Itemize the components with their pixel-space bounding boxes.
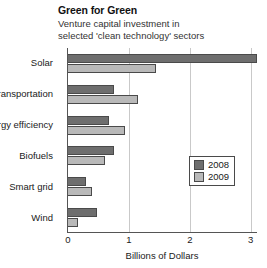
y-axis-label-smart-grid: Smart grid [0, 181, 53, 192]
bar-2008 [68, 177, 86, 186]
x-axis-tick-0: 0 [65, 234, 70, 245]
bar-2008 [68, 54, 257, 63]
bar-2008 [68, 208, 97, 217]
bar-2009 [68, 156, 105, 165]
y-axis-label-biofuels: Biofuels [0, 150, 53, 161]
legend-swatch-2009 [194, 172, 204, 182]
legend-label-2009: 2009 [208, 172, 229, 182]
bar-group [68, 79, 257, 110]
y-axis-label-solar: Solar [0, 57, 53, 68]
legend-item-2009: 2009 [194, 172, 229, 182]
bar-2009 [68, 187, 92, 196]
x-axis-tick-1: 1 [126, 234, 131, 245]
legend-swatch-2008 [194, 160, 204, 170]
bar-2009 [68, 64, 156, 73]
x-axis-title: Billions of Dollars [67, 250, 257, 261]
plot-area: SolarTransportationEnergy efficiencyBiof… [67, 48, 257, 233]
chart-legend: 20082009 [189, 156, 235, 186]
bar-group [68, 110, 257, 141]
bar-2009 [68, 218, 78, 227]
bar-2009 [68, 126, 125, 135]
x-axis-tick-2: 2 [187, 234, 192, 245]
chart-subtitle: Venture capital investment in selected '… [58, 18, 208, 41]
legend-label-2008: 2008 [208, 160, 229, 170]
y-axis-label-wind: Wind [0, 212, 53, 223]
chart-header: Green for Green Venture capital investme… [58, 4, 263, 41]
x-axis-tick-3: 3 [248, 234, 253, 245]
legend-item-2008: 2008 [194, 160, 229, 170]
bar-group [68, 202, 257, 233]
chart-title: Green for Green [58, 4, 263, 16]
bar-2008 [68, 116, 109, 125]
bar-2009 [68, 95, 138, 104]
bar-group [68, 48, 257, 79]
y-axis-label-transportation: Transportation [0, 88, 53, 99]
bar-2008 [68, 146, 114, 155]
bar-2008 [68, 85, 114, 94]
y-axis-label-energy-efficiency: Energy efficiency [0, 119, 53, 130]
